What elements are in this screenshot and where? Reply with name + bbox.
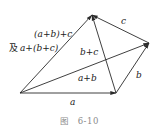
label-a-plus-b: a+b [78, 73, 97, 83]
figure-caption: 图6-10 [0, 114, 159, 126]
label-c: c [121, 16, 126, 26]
label-a: a [70, 97, 75, 107]
label-sum-line2: a+(b+c) [20, 43, 59, 53]
caption-number: 6-10 [78, 116, 99, 126]
label-b: b [136, 70, 142, 80]
vector-b-arrow [116, 43, 149, 93]
caption-prefix: 图 [60, 116, 70, 126]
label-sum-line2-prefix: 及 [9, 43, 18, 53]
label-b-plus-c: b+c [80, 47, 98, 57]
label-sum-line1: (a+b)+c [34, 29, 72, 39]
